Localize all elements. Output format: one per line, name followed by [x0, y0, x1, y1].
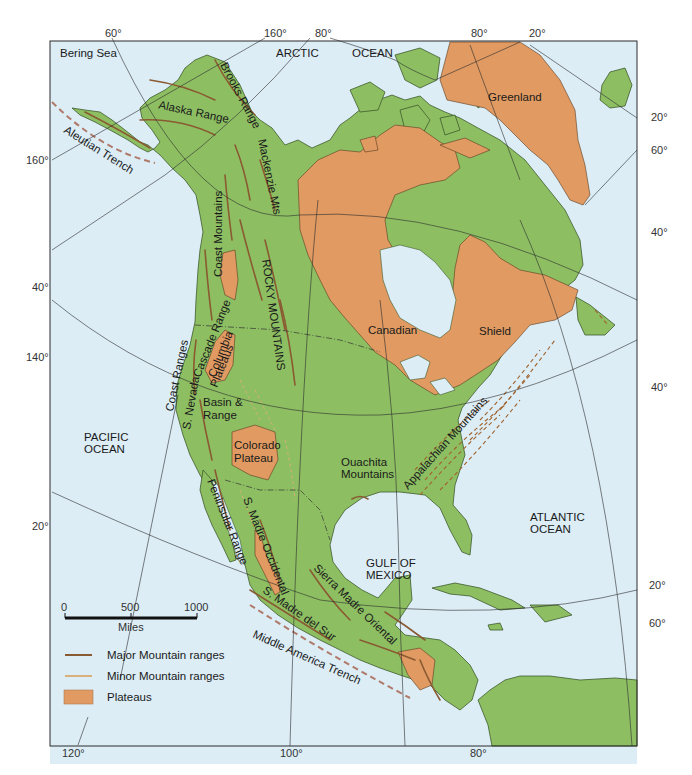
scale-unit: Miles [118, 621, 144, 633]
deg-right-20b: 20° [649, 579, 666, 591]
deg-bottom-80: 80° [470, 747, 487, 759]
label-atlantic: ATLANTIC [530, 511, 585, 523]
deg-left-160: 160° [26, 154, 49, 166]
deg-right-20a: 20° [651, 111, 668, 123]
label-arctic-ocean: OCEAN [352, 47, 393, 59]
label-coast-mountains: Coast Mountains [212, 190, 224, 277]
scale-tick-500: 500 [121, 601, 139, 613]
deg-bottom-100: 100° [280, 747, 303, 759]
landmass-south-america [478, 676, 637, 746]
deg-right-60a: 60° [651, 144, 668, 156]
label-gulf: GULF OF [366, 557, 416, 569]
label-shield: Shield [479, 325, 511, 337]
label-pacific-ocean: OCEAN [84, 443, 125, 455]
legend-minor-label: Minor Mountain ranges [107, 670, 225, 682]
deg-right-40b: 40° [651, 381, 668, 393]
label-bering-sea: Bering Sea [60, 47, 118, 59]
label-greenland: Greenland [488, 91, 542, 103]
deg-right-40a: 40° [651, 226, 668, 238]
label-atlantic-ocean: OCEAN [530, 523, 571, 535]
label-canadian: Canadian [368, 324, 417, 336]
scale-tick-0: 0 [61, 601, 67, 613]
north-america-map: Bering Sea ARCTIC OCEAN PACIFIC OCEAN AT… [0, 0, 692, 775]
deg-bottom-120: 120° [62, 747, 85, 759]
deg-left-40: 40° [32, 281, 49, 293]
legend-plateau-label: Plateaus [107, 691, 152, 703]
label-ouachita-mountains: Mountains [341, 468, 394, 480]
label-pacific: PACIFIC [84, 431, 129, 443]
label-basin: Basin & [203, 396, 243, 408]
label-basin-range: Range [203, 409, 237, 421]
legend-plateau-swatch [64, 690, 93, 704]
deg-top-160: 160° [264, 27, 287, 39]
deg-right-60b: 60° [649, 617, 666, 629]
deg-top-60: 60° [105, 27, 122, 39]
legend-major-label: Major Mountain ranges [107, 649, 225, 661]
label-arctic: ARCTIC [276, 47, 319, 59]
label-colorado: Colorado [234, 439, 281, 451]
deg-top-80a: 80° [315, 27, 332, 39]
label-ouachita: Ouachita [341, 456, 388, 468]
deg-top-80b: 80° [471, 27, 488, 39]
label-colorado-plateau: Plateau [234, 452, 273, 464]
scale-tick-1000: 1000 [184, 601, 208, 613]
deg-top-20: 20° [529, 27, 546, 39]
label-gulf-mexico: MEXICO [366, 569, 411, 581]
deg-left-20: 20° [32, 520, 49, 532]
deg-left-140: 140° [26, 351, 49, 363]
